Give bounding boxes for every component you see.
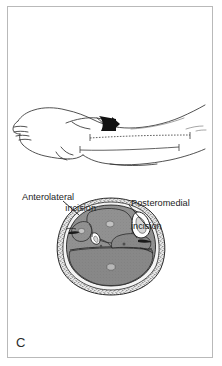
figure-panel: Anterolateral incision Posteromedial inc… — [0, 0, 222, 366]
panel-letter: C — [16, 336, 26, 349]
label-anterolateral-incision: Anterolateral incision — [22, 180, 108, 226]
anterolateral-incision-line — [90, 132, 190, 141]
label-anterolateral-line1: Anterolateral — [22, 192, 74, 202]
posteromedial-incision-line — [80, 144, 179, 153]
label-posteromedial-line1: Posteromedial — [131, 198, 190, 208]
label-posteromedial-line2: incision — [131, 221, 162, 231]
label-posteromedial-incision: Posteromedial incision — [131, 186, 213, 232]
label-anterolateral-line2: incision — [22, 203, 108, 215]
